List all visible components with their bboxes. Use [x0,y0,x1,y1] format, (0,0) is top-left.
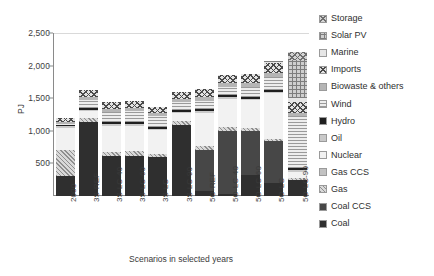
bar-segment-wind [288,116,307,168]
legend-label: Biowaste & others [331,82,404,91]
bar-segment-imports [218,75,237,83]
y-axis-tick-mark [48,65,53,66]
bar-segment-nuclear [125,126,144,151]
legend-swatch-icon [319,117,327,125]
bar-segment-nuclear [102,126,121,152]
legend-label: Gas [331,185,348,194]
legend-item-nuclear[interactable]: Nuclear [319,147,431,164]
y-axis-tick-mark [48,163,53,164]
legend-item-wind[interactable]: Wind [319,95,431,112]
legend-label: Imports [331,65,361,74]
legend-item-gas-ccs[interactable]: Gas CCS [319,164,431,181]
bar-segment-gas [172,121,191,125]
legend-swatch-icon [319,168,327,176]
bar-segment-biowaste [241,83,260,87]
bar-segment-storage [288,52,307,60]
bar-segment-biowaste [195,97,214,101]
y-axis-tick-label: 1,500 [0,93,50,103]
x-axis-tick-label: 5O-LC-40 [231,166,240,202]
bar-segment-nuclear [195,113,214,146]
y-axis-tick-label: 2,000 [0,61,50,71]
bar-segment-biowaste [264,73,283,77]
bar-segment-wind [102,112,121,122]
legend-label: Gas CCS [331,168,369,177]
bar-segment-imports [148,107,167,113]
legend: StorageSolar PVMarineImportsBiowaste & o… [319,10,431,232]
bar-segment-biowaste [56,122,75,124]
bar-segment-gas [125,151,144,156]
legend-label: Oil [331,134,342,143]
x-axis-tick-label: 2000 [69,184,78,202]
bar-segment-imports [102,102,121,109]
bar-segment-biowaste [125,108,144,111]
bar-segment-wind [264,77,283,90]
bar-segment-gas [195,146,214,151]
bar-segment-solarpv [264,61,283,62]
x-axis-tick-label: 3S-REF [92,173,101,202]
legend-label: Wind [331,100,352,109]
legend-swatch-icon [319,66,327,74]
bar-segment-gas [148,154,167,157]
legend-swatch-icon [319,203,327,211]
legend-item-coal[interactable]: Coal [319,215,431,232]
bar-segment-gas [264,139,283,141]
legend-swatch-icon [319,185,327,193]
legend-item-storage[interactable]: Storage [319,10,431,27]
x-axis-tick-label: 5O-LC-60 [254,166,263,202]
legend-swatch-icon [319,15,327,23]
bar-segment-wind [241,87,260,97]
bar-segment-marine [264,62,283,63]
bar-segment-coalccs [264,141,283,183]
legend-item-gas[interactable]: Gas [319,181,431,198]
bar-segment-oil [79,110,98,111]
bar-segment-oil [56,126,75,128]
bar-segment-nuclear [79,111,98,118]
legend-swatch-icon [319,151,327,159]
bar-segment-oil [102,124,121,126]
legend-item-hydro[interactable]: Hydro [319,113,431,130]
bar-5o-lc[interactable] [264,61,283,196]
bar-segment-imports [288,102,307,113]
bar-segment-hydro [241,97,260,99]
x-axis-tick-label: 5O-LC-90 [301,166,310,202]
bar-segment-imports [172,92,191,99]
x-axis-tick-label: 3S-LC-40 [115,167,124,202]
bar-segment-wind [195,101,214,109]
bar-segment-biowaste [79,97,98,100]
bar-segment-hydro [125,122,144,124]
bar-segment-imports [264,63,283,73]
bar-segment-imports [241,74,260,83]
bar-segment-hydro [56,124,75,126]
legend-item-marine[interactable]: Marine [319,44,431,61]
legend-item-coal-ccs[interactable]: Coal CCS [319,198,431,215]
bar-segment-oil [218,97,237,99]
legend-swatch-icon [319,32,327,40]
y-axis-tick-label: 1,000 [0,126,50,136]
x-axis-tick-label: 5O-LC [277,178,286,202]
y-axis-tick-mark [48,130,53,131]
legend-label: Hydro [331,117,355,126]
legend-item-imports[interactable]: Imports [319,61,431,78]
bar-segment-marine [288,98,307,102]
bar-segment-gas [218,127,237,131]
legend-item-solar-pv[interactable]: Solar PV [319,27,431,44]
bar-segment-oil [195,111,214,113]
bar-segment-wind [148,116,167,127]
bar-segment-gas [241,128,260,131]
bar-segment-nuclear [172,113,191,121]
legend-item-biowaste-others[interactable]: Biowaste & others [319,78,431,95]
legend-label: Marine [331,48,359,57]
legend-swatch-icon [319,220,327,228]
bar-segment-hydro [148,127,167,129]
y-axis-tick-mark [48,33,53,34]
bar-segment-biowaste [172,99,191,102]
bar-segment-imports [125,101,144,108]
legend-item-oil[interactable]: Oil [319,130,431,147]
bar-segment-oil [264,92,283,94]
bar-segment-nuclear [264,93,283,139]
bar-segment-nuclear [241,100,260,128]
bar-segment-hydro [218,95,237,97]
legend-label: Solar PV [331,31,367,40]
bar-segment-wind [172,102,191,110]
legend-label: Nuclear [331,151,362,160]
